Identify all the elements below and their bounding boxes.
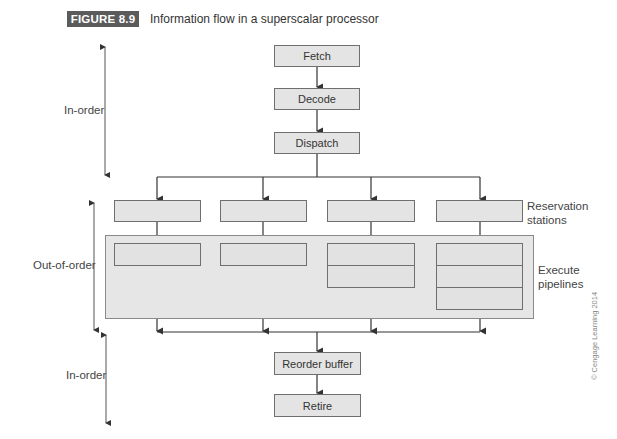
execute-pipelines-label: Execute pipelines [538,263,583,291]
phase-label-in-order-bottom: In-order [66,369,106,381]
pipeline-stage [437,244,522,266]
execute-pipeline-3 [327,243,415,288]
reservation-station-2 [220,200,307,222]
reservation-stations-label: Reservation stations [527,199,588,227]
pipeline-stage [437,266,522,288]
decode-stage: Decode [274,88,360,110]
pipeline-stage [221,244,306,266]
fetch-stage: Fetch [274,45,360,67]
reservation-station-3 [327,200,415,222]
copyright-credit: © Cengage Learning 2014 [590,292,599,380]
pipeline-stage [328,266,414,288]
dispatch-stage: Dispatch [274,132,360,154]
execute-pipeline-1 [114,243,201,266]
reservation-station-1 [114,200,201,222]
reservation-label-line1: Reservation [527,199,588,213]
phase-label-out-of-order: Out-of-order [33,259,96,271]
pipeline-stage [115,244,200,266]
pipeline-stage [328,244,414,266]
execute-pipeline-4 [436,243,523,310]
reservation-station-4 [436,200,523,222]
reorder-buffer-stage: Reorder buffer [274,352,361,375]
execute-label-line1: Execute [538,263,583,277]
retire-stage: Retire [274,394,361,417]
execute-pipeline-2 [220,243,307,266]
pipeline-stage [437,288,522,310]
execute-label-line2: pipelines [538,277,583,291]
reservation-label-line2: stations [527,213,588,227]
phase-label-in-order-top: In-order [64,104,104,116]
